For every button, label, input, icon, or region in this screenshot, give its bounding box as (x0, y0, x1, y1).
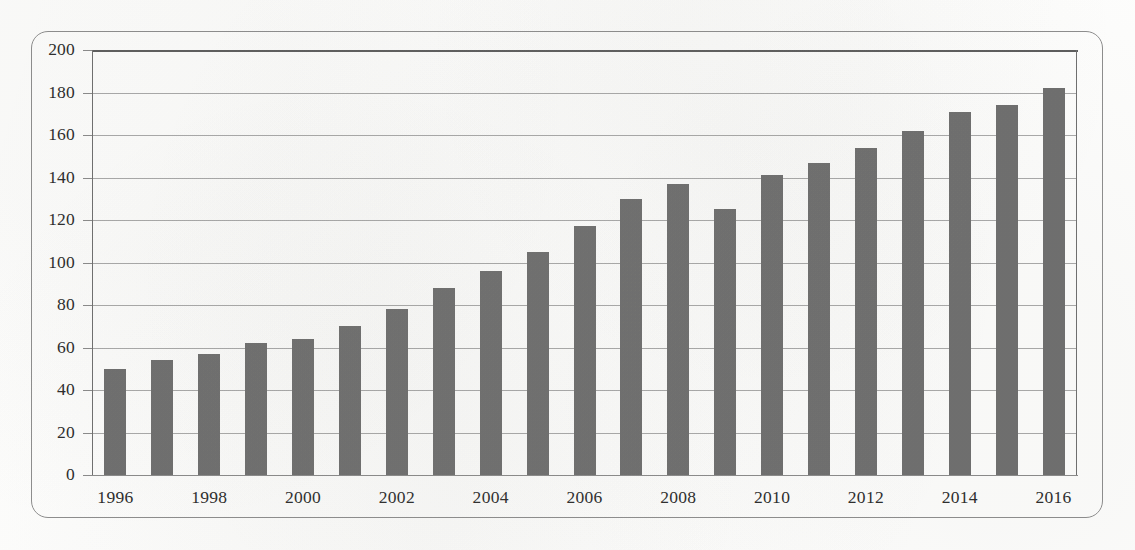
y-tick-mark (83, 305, 92, 306)
bar (527, 252, 549, 475)
y-axis-tick-label: 160 (31, 124, 75, 145)
y-tick-mark (83, 220, 92, 221)
x-axis-tick-label: 1996 (75, 487, 155, 508)
y-tick-mark (83, 93, 92, 94)
x-axis-tick-label: 2002 (357, 487, 437, 508)
x-axis-tick-label: 2012 (826, 487, 906, 508)
y-axis-tick-label: 20 (31, 422, 75, 443)
chart-page: 020406080100120140160180200 199619982000… (0, 0, 1135, 550)
y-tick-mark (83, 50, 92, 51)
bar (902, 131, 924, 475)
bar (667, 184, 689, 475)
x-axis-tick-label: 2010 (732, 487, 812, 508)
x-axis-tick-label: 2008 (638, 487, 718, 508)
x-axis-tick-label: 2016 (1014, 487, 1094, 508)
y-tick-mark (83, 263, 92, 264)
plot-axis-x (92, 475, 1078, 476)
plot-border-right (1076, 50, 1077, 476)
x-axis-tick-label: 1998 (169, 487, 249, 508)
bar (292, 339, 314, 475)
bars-group (92, 50, 1077, 475)
bar (574, 226, 596, 475)
y-axis-tick-label: 40 (31, 379, 75, 400)
x-axis-tick-label: 2006 (545, 487, 625, 508)
bar (433, 288, 455, 475)
y-axis-tick-label: 100 (31, 252, 75, 273)
bar (386, 309, 408, 475)
bar (620, 199, 642, 475)
bar (808, 163, 830, 475)
y-axis-tick-label: 200 (31, 39, 75, 60)
y-tick-mark (83, 135, 92, 136)
bar (996, 105, 1018, 475)
y-axis-tick-label: 80 (31, 294, 75, 315)
bar (198, 354, 220, 475)
bar (761, 175, 783, 475)
bar (949, 112, 971, 475)
plot-border-top (92, 50, 1078, 52)
bar (151, 360, 173, 475)
y-axis-tick-label: 140 (31, 167, 75, 188)
x-axis-tick-label: 2000 (263, 487, 343, 508)
plot-axis-y (92, 50, 93, 476)
y-axis-tick-label: 120 (31, 209, 75, 230)
bar (339, 326, 361, 475)
y-tick-mark (83, 178, 92, 179)
y-tick-mark (83, 475, 92, 476)
bar (245, 343, 267, 475)
bar (714, 209, 736, 475)
bar (480, 271, 502, 475)
y-axis-tick-label: 0 (31, 464, 75, 485)
y-tick-mark (83, 390, 92, 391)
bar (855, 148, 877, 475)
x-axis-tick-label: 2004 (451, 487, 531, 508)
y-axis-tick-label: 180 (31, 82, 75, 103)
bar (104, 369, 126, 475)
x-axis-tick-label: 2014 (920, 487, 1000, 508)
bar (1043, 88, 1065, 475)
y-tick-mark (83, 433, 92, 434)
y-axis-tick-label: 60 (31, 337, 75, 358)
y-tick-mark (83, 348, 92, 349)
